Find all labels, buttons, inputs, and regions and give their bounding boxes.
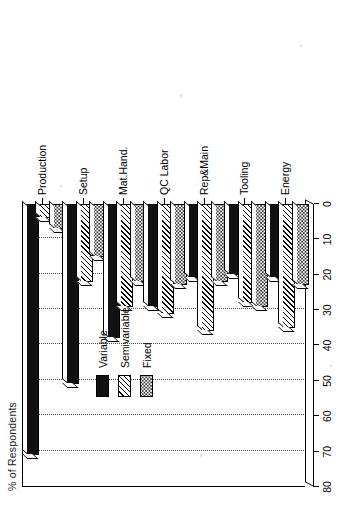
bar-top-face bbox=[251, 201, 256, 306]
gridline bbox=[23, 414, 306, 415]
bar-top-face bbox=[116, 201, 121, 306]
bar-top-face bbox=[265, 201, 270, 277]
bar-top-face bbox=[278, 201, 283, 327]
scan-speckle bbox=[250, 305, 252, 307]
axis-tick-label: 80 bbox=[321, 481, 333, 493]
bar-chart-figure: % of Respondents 80706050403020100 Produ… bbox=[0, 0, 345, 517]
axis-tick bbox=[314, 274, 319, 275]
axis-tick bbox=[314, 451, 319, 452]
axis-tick-label: 0 bbox=[321, 201, 333, 207]
axis-tick bbox=[314, 203, 319, 204]
axis-tick bbox=[314, 238, 319, 239]
bar-variable-production bbox=[26, 204, 39, 455]
category-label: Energy bbox=[279, 162, 291, 195]
axis-tick bbox=[314, 380, 319, 381]
bar-top-face bbox=[197, 201, 202, 331]
legend-item-semivariable: Semivariable bbox=[118, 307, 131, 397]
bar-top-face bbox=[238, 201, 243, 302]
legend-swatch-semivariable bbox=[118, 375, 131, 397]
bar-top-face bbox=[130, 201, 135, 281]
bar-top-face bbox=[224, 201, 229, 274]
axis-tick-label: 60 bbox=[321, 410, 333, 422]
scan-speckle bbox=[180, 94, 182, 97]
axis-tick-label: 30 bbox=[321, 304, 333, 316]
category-label: Tooling bbox=[238, 162, 250, 195]
bar-top-face bbox=[292, 201, 297, 285]
legend-label-variable: Variable bbox=[97, 330, 109, 368]
bar-top-face bbox=[170, 201, 175, 285]
legend-swatch-fixed bbox=[140, 375, 153, 397]
bar-top-face bbox=[211, 201, 216, 281]
plot-surface: % of Respondents 80706050403020100 Produ… bbox=[0, 0, 345, 517]
value-axis-title: % of Respondents bbox=[6, 402, 18, 491]
axis-tick-label: 20 bbox=[321, 269, 333, 281]
axis-tick-label: 70 bbox=[321, 446, 333, 458]
category-label: QC Labor bbox=[158, 149, 170, 195]
bar-top-face bbox=[89, 201, 94, 256]
scan-speckle bbox=[330, 365, 332, 367]
category-label: Setup bbox=[77, 168, 89, 195]
bar-top-face bbox=[62, 201, 67, 384]
category-label: Rep&Main bbox=[198, 146, 210, 195]
scan-speckle bbox=[300, 45, 302, 47]
bar-top-face bbox=[143, 201, 148, 306]
axis-tick bbox=[314, 415, 319, 416]
gridline bbox=[23, 450, 306, 451]
category-label: Production bbox=[36, 145, 48, 195]
legend-label-semivariable: Semivariable bbox=[119, 307, 131, 368]
chart-legend: Variable Semivariable Fixed bbox=[96, 307, 162, 397]
scan-speckle bbox=[60, 185, 62, 187]
legend-item-fixed: Fixed bbox=[140, 307, 153, 397]
bar-top-face bbox=[184, 201, 189, 277]
bar-top-face bbox=[76, 201, 81, 281]
scan-speckle bbox=[200, 454, 202, 457]
axis-tick-label: 10 bbox=[321, 234, 333, 246]
legend-swatch-variable bbox=[96, 375, 109, 397]
bar-top-face bbox=[49, 201, 54, 228]
bar-fixed-energy bbox=[296, 204, 309, 285]
bar-top-face bbox=[22, 201, 27, 454]
axis-tick bbox=[314, 309, 319, 310]
legend-label-fixed: Fixed bbox=[141, 342, 153, 368]
legend-item-variable: Variable bbox=[96, 307, 109, 397]
axis-tick-label: 50 bbox=[321, 375, 333, 387]
category-label: Mat.Hand. bbox=[117, 147, 129, 195]
bar-top-face bbox=[157, 201, 162, 313]
axis-tick bbox=[314, 486, 319, 487]
axis-tick bbox=[314, 345, 319, 346]
axis-tick-label: 40 bbox=[321, 340, 333, 352]
